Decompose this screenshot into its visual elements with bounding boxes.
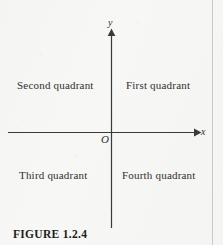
- quadrant-label-second: Second quadrant: [17, 80, 94, 91]
- arrow-up-icon: [108, 29, 116, 37]
- coordinate-axes-graphic: [0, 0, 223, 245]
- y-axis-label: y: [108, 18, 112, 28]
- figure-panel: y x O Second quadrant First quadrant Thi…: [0, 0, 223, 245]
- origin-label: O: [101, 134, 109, 145]
- quadrant-label-third: Third quadrant: [19, 170, 87, 181]
- quadrant-label-fourth: Fourth quadrant: [122, 170, 196, 181]
- figure-caption: FIGURE 1.2.4: [13, 229, 87, 241]
- x-axis-label: x: [201, 127, 205, 137]
- quadrant-label-first: First quadrant: [126, 80, 190, 91]
